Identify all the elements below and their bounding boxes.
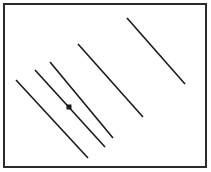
figure-container xyxy=(0,0,211,172)
point-marker xyxy=(67,105,72,110)
canvas-background xyxy=(0,0,211,172)
point-marker-group xyxy=(67,105,72,110)
line-figure-canvas xyxy=(0,0,211,172)
